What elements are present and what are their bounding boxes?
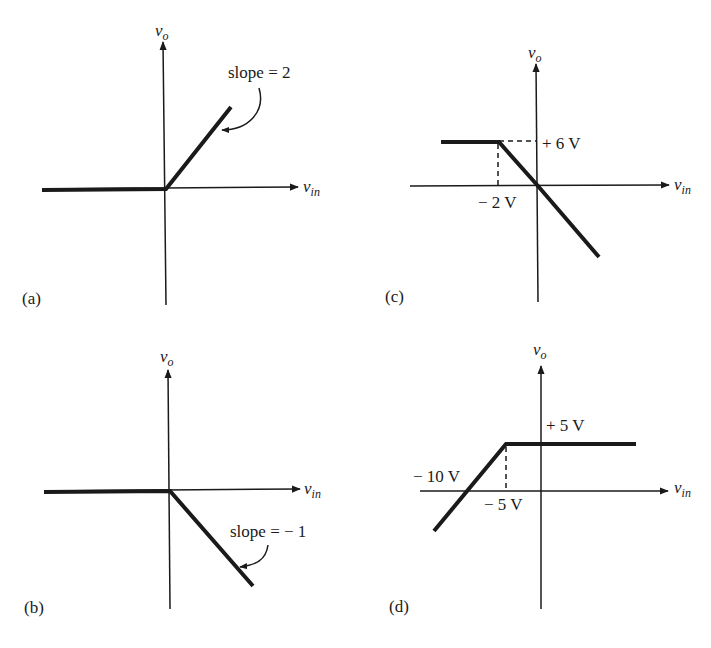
panel-d: vo vin + 5 V − 5 V − 10 V (d) <box>389 340 691 616</box>
y-axis-label: vo <box>160 347 174 369</box>
panel-label: (c) <box>385 287 404 306</box>
x-axis-label: vin <box>304 479 321 501</box>
panel-b: vo vin slope = − 1 (b) <box>24 347 321 617</box>
panel-label: (a) <box>22 289 41 308</box>
panel-a: vo vin slope = 2 (a) <box>22 21 320 308</box>
y-axis <box>163 42 166 305</box>
y-axis-label: vo <box>528 43 542 65</box>
x-intercept-label: − 10 V <box>413 467 461 486</box>
transfer-curve <box>441 142 599 257</box>
panel-c: vo vin + 6 V − 2 V (c) <box>385 43 691 306</box>
x-marker-label: − 2 V <box>478 193 517 212</box>
panel-label: (b) <box>24 598 44 617</box>
transfer-curve <box>434 444 636 531</box>
transfer-curve <box>44 491 253 586</box>
x-axis-label: vin <box>674 175 691 197</box>
x-axis-label: vin <box>303 177 320 199</box>
y-axis-label: vo <box>533 340 547 362</box>
y-axis-label: vo <box>155 21 169 43</box>
transfer-curve <box>42 107 231 190</box>
y-marker-label: + 5 V <box>546 416 585 435</box>
slope-annotation: slope = 2 <box>228 63 290 82</box>
panel-label: (d) <box>389 597 409 616</box>
annotation-arrow <box>240 545 268 567</box>
x-axis-label: vin <box>674 478 691 500</box>
y-marker-label: + 6 V <box>542 134 581 153</box>
x-marker-label: − 5 V <box>484 495 523 514</box>
slope-annotation: slope = − 1 <box>230 522 306 541</box>
